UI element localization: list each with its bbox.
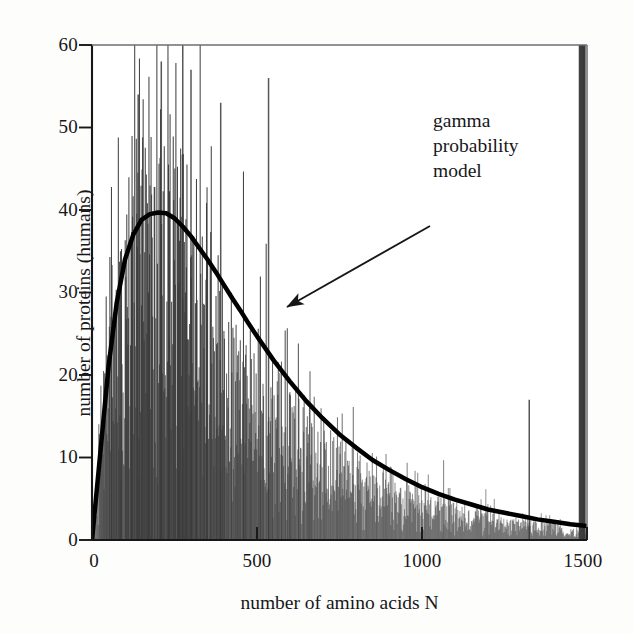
y-tick-label-30: 30 <box>34 281 78 303</box>
figure-panel: 60 50 40 30 20 10 0 0 500 1000 1500 numb… <box>0 0 633 634</box>
annotation-line-3: model <box>433 158 519 183</box>
y-tick-label-40: 40 <box>34 199 78 221</box>
x-tick-label-0: 0 <box>89 550 99 572</box>
annotation-label: gamma probability model <box>433 108 519 183</box>
y-tick-label-50: 50 <box>34 116 78 138</box>
y-tick-label-60: 60 <box>34 34 78 56</box>
x-axis-title: number of amino acids N <box>92 592 587 614</box>
y-tick-label-20: 20 <box>34 364 78 386</box>
x-tick-label-500: 500 <box>242 550 271 572</box>
y-axis-title: number of proteins (humans) <box>73 123 95 483</box>
y-tick-label-10: 10 <box>34 446 78 468</box>
x-tick-label-1500: 1500 <box>564 550 603 572</box>
y-tick-label-0: 0 <box>34 529 78 551</box>
annotation-line-2: probability <box>433 133 519 158</box>
x-tick-label-1000: 1000 <box>403 550 442 572</box>
annotation-line-1: gamma <box>433 108 519 133</box>
